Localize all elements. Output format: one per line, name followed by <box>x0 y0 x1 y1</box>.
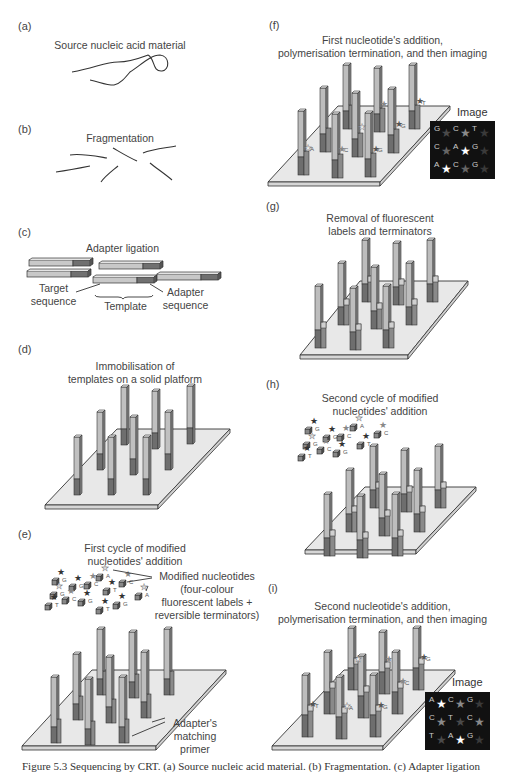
grid-letter: G <box>467 731 473 740</box>
svg-text:A: A <box>349 705 353 711</box>
svg-text:G: G <box>426 656 431 662</box>
second-nucleotide-platform: ★T ★A ★G ★C ★G ★ ★ <box>0 0 511 772</box>
grid-letter: A <box>448 731 453 740</box>
star-icon: ★ <box>474 698 485 710</box>
fluorescence-image-i: A★ C★ G★ C★ T★ C★ T★ A★ G★ <box>425 692 490 750</box>
grid-letter: C <box>429 713 435 722</box>
image-label-i: Image <box>452 676 483 688</box>
star-icon: ★ <box>455 716 466 728</box>
star-icon: ★ <box>474 716 485 728</box>
figure-caption: Figure 5.3 Sequencing by CRT. (a) Source… <box>22 760 480 772</box>
star-icon: ★ <box>436 716 447 728</box>
grid-letter: G <box>467 695 473 704</box>
star-icon: ★ <box>436 698 447 710</box>
svg-text:C: C <box>405 680 410 686</box>
svg-text:G: G <box>383 704 388 710</box>
svg-text:★: ★ <box>354 654 362 664</box>
star-icon: ★ <box>455 734 466 746</box>
svg-text:★: ★ <box>385 654 393 664</box>
grid-letter: T <box>448 713 453 722</box>
grid-letter: T <box>429 731 434 740</box>
star-icon: ★ <box>436 734 447 746</box>
star-icon: ★ <box>455 698 466 710</box>
grid-letter: A <box>429 695 434 704</box>
grid-letter: C <box>448 695 454 704</box>
grid-letter: C <box>467 713 473 722</box>
svg-text:T: T <box>315 703 319 709</box>
star-icon: ★ <box>474 734 485 746</box>
